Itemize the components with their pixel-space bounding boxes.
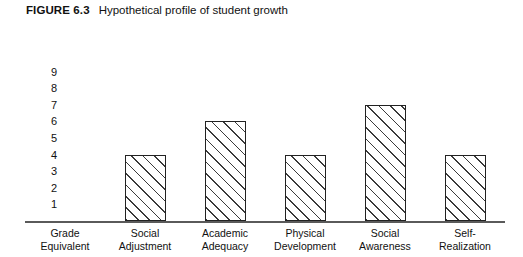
x-axis-category-label: Grade Equivalent: [25, 227, 105, 252]
x-axis-category-label: Academic Adequacy: [185, 227, 265, 252]
x-axis-category-label: Social Adjustment: [105, 227, 185, 252]
x-axis-line: [25, 221, 505, 223]
bar: [205, 121, 246, 221]
x-axis-category-label: Physical Development: [265, 227, 345, 252]
y-axis-tick-label: 6: [35, 116, 57, 127]
bar: [365, 105, 406, 221]
y-axis-tick-label: 7: [35, 100, 57, 111]
y-axis-tick-label: 4: [35, 150, 57, 161]
y-axis-tick-label: 2: [35, 183, 57, 194]
bar: [125, 155, 166, 221]
bar-chart: 123456789 Grade EquivalentSocial Adjustm…: [0, 0, 523, 257]
bar: [285, 155, 326, 221]
y-axis-tick-label: 8: [35, 83, 57, 94]
y-axis-tick-label: 9: [35, 67, 57, 78]
bar: [445, 155, 486, 221]
y-axis-tick-label: 1: [35, 199, 57, 210]
y-axis-tick-label: 3: [35, 166, 57, 177]
x-axis-category-label: Self- Realization: [425, 227, 505, 252]
y-axis-tick-label: 5: [35, 133, 57, 144]
x-axis-category-label: Social Awareness: [345, 227, 425, 252]
